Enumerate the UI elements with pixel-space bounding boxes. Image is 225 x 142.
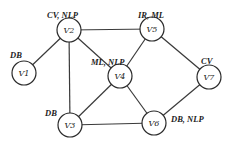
node-tag-v1: DB — [9, 50, 22, 60]
node-v1: V1 — [12, 61, 36, 85]
node-v3: V3 — [58, 113, 82, 137]
node-v6: V6 — [142, 111, 166, 135]
node-label: V4 — [115, 72, 126, 81]
node-tag-v5: IR, ML — [137, 10, 164, 20]
graph-diagram: V1V2V3V4V5V6V7 DBCV, NLPDBML, NLPIR, MLD… — [0, 0, 225, 142]
node-label: V3 — [65, 121, 76, 130]
node-label: V6 — [149, 119, 160, 128]
node-tag-v4: ML, NLP — [90, 57, 125, 67]
node-tag-v3: DB — [44, 108, 57, 118]
node-tag-v7: CV — [201, 56, 214, 66]
node-v5: V5 — [140, 17, 164, 41]
node-label: V5 — [147, 25, 158, 34]
edge-v2-v3 — [69, 30, 70, 125]
edge-v3-v6 — [70, 123, 154, 125]
node-v2: V2 — [57, 18, 81, 42]
node-v7: V7 — [197, 65, 221, 89]
node-label: V7 — [204, 73, 216, 82]
node-label: V1 — [19, 69, 30, 78]
node-label: V2 — [64, 26, 75, 35]
node-tag-v6: DB, NLP — [170, 114, 204, 124]
node-v4: V4 — [108, 64, 132, 88]
node-tag-v2: CV, NLP — [47, 10, 79, 20]
